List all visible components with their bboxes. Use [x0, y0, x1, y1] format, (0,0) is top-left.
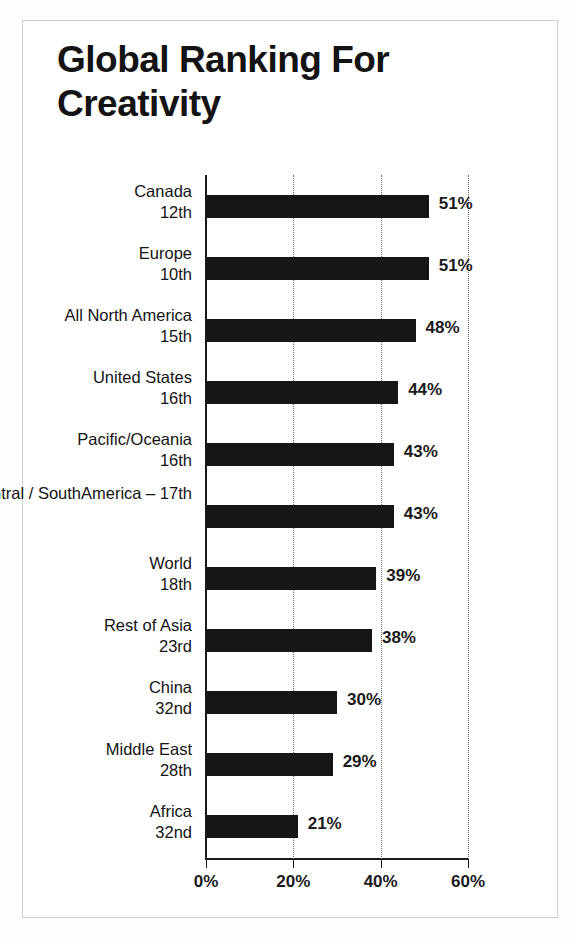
category-rank: 18th: [0, 574, 192, 595]
category-rank: America – 17th: [81, 484, 192, 502]
bar: [206, 381, 398, 404]
bar-row: China32nd30%: [206, 671, 468, 733]
category-rank: 16th: [0, 388, 192, 409]
bar-value-label: 30%: [347, 690, 381, 710]
chart-title: Global Ranking For Creativity: [57, 38, 477, 125]
bar-row: All North America15th48%: [206, 299, 468, 361]
category-label: Central / SouthAmerica – 17th: [0, 483, 192, 504]
plot-area: 0%20%40%60% Canada12th51%Europe10th51%Al…: [206, 175, 468, 859]
category-label: All North America15th: [0, 305, 192, 346]
category-rank: 28th: [0, 760, 192, 781]
bar-row: Canada12th51%: [206, 175, 468, 237]
chart-page: Global Ranking For Creativity 0%20%40%60…: [0, 0, 577, 938]
bar-row: Middle East28th29%: [206, 733, 468, 795]
category-name: All North America: [65, 306, 192, 324]
category-label: Africa32nd: [0, 801, 192, 842]
bar-row: United States16th44%: [206, 361, 468, 423]
bar-value-label: 38%: [382, 628, 416, 648]
category-rank: 32nd: [0, 698, 192, 719]
x-tick-label: 40%: [346, 872, 416, 892]
category-label: World18th: [0, 553, 192, 594]
tick-mark-60pct: [468, 859, 469, 868]
tick-mark-0pct: [206, 859, 207, 868]
category-name: World: [149, 554, 192, 572]
tick-mark-20pct: [293, 859, 294, 868]
bar-row: World18th39%: [206, 547, 468, 609]
category-rank: 15th: [0, 326, 192, 347]
category-rank: 10th: [0, 264, 192, 285]
category-axis-line: [205, 858, 469, 860]
category-name: China: [149, 678, 192, 696]
bar-value-label: 43%: [404, 442, 438, 462]
category-name: Europe: [139, 244, 192, 262]
category-label: Canada12th: [0, 181, 192, 222]
bar: [206, 505, 394, 528]
category-label: United States16th: [0, 367, 192, 408]
bar: [206, 567, 376, 590]
category-name: Africa: [150, 802, 192, 820]
x-tick-label: 20%: [258, 872, 328, 892]
x-tick-label: 60%: [433, 872, 503, 892]
category-name: Central / South: [0, 484, 81, 502]
bar: [206, 319, 416, 342]
bar-row: Rest of Asia23rd38%: [206, 609, 468, 671]
bar-row: Pacific/Oceania16th43%: [206, 423, 468, 485]
category-rank: 32nd: [0, 822, 192, 843]
bar-value-label: 21%: [308, 814, 342, 834]
bar-row: Europe10th51%: [206, 237, 468, 299]
bar-row: Central / SouthAmerica – 17th43%: [206, 485, 468, 547]
bar-row: Africa32nd21%: [206, 795, 468, 857]
gridline-60pct: [468, 175, 470, 859]
category-name: United States: [93, 368, 192, 386]
bar: [206, 629, 372, 652]
bar-value-label: 29%: [343, 752, 377, 772]
bar: [206, 753, 333, 776]
category-name: Middle East: [106, 740, 192, 758]
bar: [206, 443, 394, 466]
bar-value-label: 39%: [386, 566, 420, 586]
category-label: Rest of Asia23rd: [0, 615, 192, 656]
x-tick-label: 0%: [171, 872, 241, 892]
bar-value-label: 43%: [404, 504, 438, 524]
bar-value-label: 48%: [426, 318, 460, 338]
category-rank: 12th: [0, 202, 192, 223]
category-rank: 23rd: [0, 636, 192, 657]
bar-value-label: 44%: [408, 380, 442, 400]
bar-value-label: 51%: [439, 194, 473, 214]
category-label: Middle East28th: [0, 739, 192, 780]
category-label: Europe10th: [0, 243, 192, 284]
category-name: Rest of Asia: [104, 616, 192, 634]
category-label: China32nd: [0, 677, 192, 718]
tick-mark-40pct: [381, 859, 382, 868]
category-label: Pacific/Oceania16th: [0, 429, 192, 470]
bar: [206, 691, 337, 714]
category-name: Pacific/Oceania: [77, 430, 192, 448]
bar: [206, 195, 429, 218]
bar-value-label: 51%: [439, 256, 473, 276]
category-rank: 16th: [0, 450, 192, 471]
bar: [206, 257, 429, 280]
bar: [206, 815, 298, 838]
category-name: Canada: [134, 182, 192, 200]
